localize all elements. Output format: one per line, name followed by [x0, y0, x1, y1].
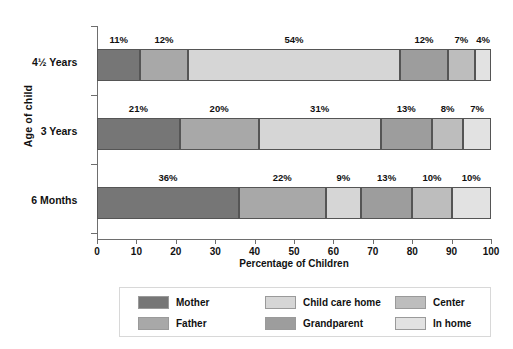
- legend-label: Grandparent: [303, 318, 363, 329]
- x-axis-tick: [412, 239, 413, 244]
- stacked-bar-chart-figure: Age of child 4½ Years11%12%54%12%7%4%3 Y…: [0, 0, 513, 349]
- chart-legend: MotherFatherChild care homeGrandparentCe…: [119, 287, 491, 337]
- x-axis-tick: [215, 239, 216, 244]
- legend-swatch: [265, 296, 296, 309]
- y-axis-tick: [91, 233, 97, 234]
- bar-segment: [448, 49, 476, 81]
- legend-item: Child care home: [265, 296, 381, 309]
- legend-swatch: [138, 317, 169, 330]
- x-axis-tick-label: 40: [249, 246, 260, 257]
- legend-item: In home: [395, 317, 471, 330]
- bar-segment: [361, 187, 412, 219]
- bar-segment-value-label: 11%: [109, 34, 128, 45]
- bar-segment: [432, 118, 464, 150]
- bar-segment: [180, 118, 259, 150]
- x-axis-tick: [97, 239, 98, 244]
- legend-label: Mother: [176, 297, 209, 308]
- bar-segment-value-label: 12%: [154, 34, 173, 45]
- legend-swatch: [265, 317, 296, 330]
- x-axis-tick-label: 20: [170, 246, 181, 257]
- bar-segment-value-label: 20%: [210, 103, 229, 114]
- bar-segment: [97, 49, 140, 81]
- y-axis-category-label: 4½ Years: [7, 56, 77, 68]
- segment-label-row: 21%20%31%13%8%7%: [97, 103, 491, 118]
- bar-segment-value-label: 10%: [422, 172, 441, 183]
- bar-segment: [188, 49, 401, 81]
- legend-swatch: [395, 296, 426, 309]
- bar-segment-value-label: 7%: [470, 103, 484, 114]
- bar-segment-value-label: 10%: [462, 172, 481, 183]
- x-axis-tick-label: 10: [131, 246, 142, 257]
- bar-segment: [452, 187, 491, 219]
- x-axis-tick: [333, 239, 334, 244]
- segment-label-row: 36%22%9%13%10%10%: [97, 172, 491, 187]
- x-axis-tick-label: 0: [94, 246, 100, 257]
- x-axis-tick-label: 100: [483, 246, 500, 257]
- bar-segment: [97, 187, 239, 219]
- y-axis-tick: [91, 164, 97, 165]
- bar-segment-value-label: 31%: [310, 103, 329, 114]
- bar-segment: [326, 187, 361, 219]
- bar-segment: [140, 49, 187, 81]
- y-axis-category-label: 6 Months: [7, 194, 77, 206]
- legend-swatch: [138, 296, 169, 309]
- legend-item: Center: [395, 296, 465, 309]
- legend-swatch: [395, 317, 426, 330]
- bar-segment: [259, 118, 381, 150]
- y-axis-tick: [91, 26, 97, 27]
- legend-label: Father: [176, 318, 207, 329]
- legend-item: Grandparent: [265, 317, 363, 330]
- plot-area: 4½ Years11%12%54%12%7%4%3 Years21%20%31%…: [97, 26, 491, 239]
- bar-segment: [412, 187, 451, 219]
- bar-segment-value-label: 8%: [441, 103, 455, 114]
- stacked-bar: [97, 187, 491, 219]
- y-axis-tick: [91, 95, 97, 96]
- bar-segment: [475, 49, 491, 81]
- x-axis-tick: [136, 239, 137, 244]
- legend-item: Father: [138, 317, 207, 330]
- bar-segment-value-label: 22%: [273, 172, 292, 183]
- bar-segment: [463, 118, 491, 150]
- stacked-bar: [97, 49, 491, 81]
- x-axis-tick-label: 80: [407, 246, 418, 257]
- bar-segment-value-label: 21%: [129, 103, 148, 114]
- segment-label-row: 11%12%54%12%7%4%: [97, 34, 491, 49]
- x-axis-tick-label: 70: [367, 246, 378, 257]
- bar-segment: [400, 49, 447, 81]
- x-axis-tick: [491, 239, 492, 244]
- legend-label: Child care home: [303, 297, 381, 308]
- legend-label: Center: [433, 297, 465, 308]
- x-axis-tick: [176, 239, 177, 244]
- bar-segment: [381, 118, 432, 150]
- legend-label: In home: [433, 318, 471, 329]
- legend-item: Mother: [138, 296, 209, 309]
- bar-segment-value-label: 4%: [476, 34, 490, 45]
- bar-segment: [97, 118, 180, 150]
- bar-segment: [239, 187, 326, 219]
- x-axis-tick: [373, 239, 374, 244]
- bar-segment-value-label: 36%: [158, 172, 177, 183]
- x-axis-tick: [255, 239, 256, 244]
- bar-segment-value-label: 13%: [397, 103, 416, 114]
- x-axis-title: Percentage of Children: [97, 258, 491, 269]
- y-axis-category-label: 3 Years: [7, 125, 77, 137]
- x-axis-tick-label: 30: [210, 246, 221, 257]
- bar-segment-value-label: 13%: [377, 172, 396, 183]
- stacked-bar: [97, 118, 491, 150]
- bar-segment-value-label: 54%: [284, 34, 303, 45]
- x-axis-tick: [294, 239, 295, 244]
- x-axis-tick-label: 90: [446, 246, 457, 257]
- x-axis-tick-label: 60: [328, 246, 339, 257]
- bar-segment-value-label: 12%: [415, 34, 434, 45]
- bar-segment-value-label: 7%: [455, 34, 469, 45]
- bar-segment-value-label: 9%: [336, 172, 350, 183]
- x-axis-tick-label: 50: [288, 246, 299, 257]
- x-axis-tick: [452, 239, 453, 244]
